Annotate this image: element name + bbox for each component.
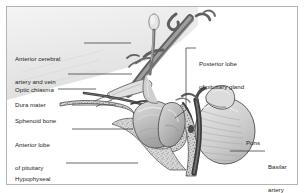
label-anterior-lobe-line1: Anterior lobe [15, 141, 50, 149]
label-anterior-cerebral-line1: Anterior cerebral [15, 55, 60, 63]
label-basilar-artery: Basilar artery [268, 148, 287, 193]
label-pons-line1: Pons [246, 139, 260, 147]
pituitary-stalk-junction [143, 74, 158, 103]
label-posterior-lobe-line1: Posterior lobe [199, 60, 244, 68]
label-hypophyseal-fossa: Hypophyseal fossa [15, 160, 50, 193]
label-sphenoid-bone-line1: Sphenoid bone [15, 117, 56, 125]
anatomy-figure: Anterior cerebral artery and vein Optic … [0, 0, 306, 193]
label-posterior-lobe-of-pituitary-gland: Posterior lobe of pituitary gland [199, 45, 244, 106]
label-basilar-artery-line1: Basilar [268, 163, 287, 171]
label-basilar-artery-line2: artery [268, 186, 287, 193]
label-pons: Pons [246, 124, 260, 162]
label-posterior-lobe-line2: of pituitary gland [199, 83, 244, 91]
label-hypophyseal-fossa-line1: Hypophyseal [15, 175, 50, 183]
